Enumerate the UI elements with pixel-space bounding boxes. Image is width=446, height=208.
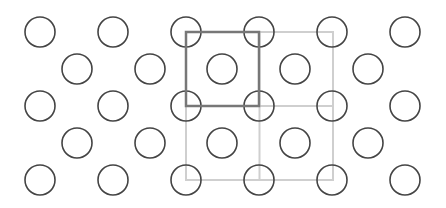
lattice-point — [390, 91, 420, 121]
lattice-point — [390, 17, 420, 47]
lattice-point — [98, 91, 128, 121]
lattice-point — [25, 165, 55, 195]
lattice-point-centered — [207, 54, 237, 84]
lattice-point-centered — [353, 128, 383, 158]
lattice-point-centered — [207, 128, 237, 158]
lattice-point-centered — [353, 54, 383, 84]
lattice-point-centered — [280, 128, 310, 158]
lattice-point — [25, 91, 55, 121]
lattice-point-centered — [135, 128, 165, 158]
lattice-point-centered — [135, 54, 165, 84]
lattice-point-centered — [62, 128, 92, 158]
lattice-point — [25, 17, 55, 47]
lattice-point-centered — [280, 54, 310, 84]
lattice-point — [98, 165, 128, 195]
lattice-diagram — [0, 0, 446, 208]
lattice-point — [390, 165, 420, 195]
lattice-point — [98, 17, 128, 47]
lattice-point-centered — [62, 54, 92, 84]
